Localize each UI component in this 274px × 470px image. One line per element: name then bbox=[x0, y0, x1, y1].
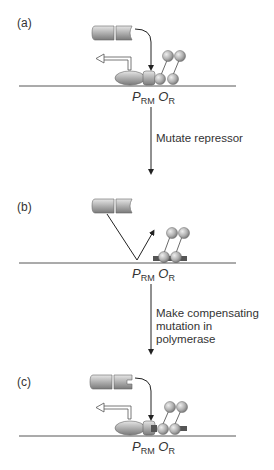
panel-b bbox=[19, 199, 236, 263]
diagram-canvas bbox=[0, 0, 274, 470]
panel-a bbox=[19, 26, 236, 86]
operator-label: O bbox=[158, 266, 168, 281]
operator-label: O bbox=[158, 439, 168, 454]
polymerase-bound-c bbox=[115, 421, 157, 435]
binding-arrow-a bbox=[135, 29, 151, 68]
repressor-mutant-b bbox=[153, 228, 190, 263]
polymerase-alpha-free-b bbox=[92, 199, 132, 213]
step-label-mutate-repressor: Mutate repressor bbox=[156, 132, 243, 145]
transcription-arrow-c bbox=[96, 403, 131, 419]
panel-c bbox=[19, 375, 236, 436]
binding-arrow-c bbox=[135, 378, 151, 418]
promoter-label: P bbox=[132, 89, 141, 104]
site-labels-a: PRM OR bbox=[132, 89, 175, 106]
panel-label-b: (b) bbox=[17, 200, 32, 214]
panel-label-c: (c) bbox=[17, 375, 31, 389]
repressor-a bbox=[155, 51, 186, 85]
repressor-mutant-c bbox=[158, 402, 188, 435]
transcription-arrow-a bbox=[96, 54, 131, 70]
promoter-label: P bbox=[132, 439, 141, 454]
promoter-label: P bbox=[132, 266, 141, 281]
step-label-compensating-mutation: Make compensating mutation in polymerase bbox=[156, 307, 274, 346]
polymerase-alpha-free-a bbox=[92, 26, 132, 40]
site-labels-c: PRM OR bbox=[132, 439, 175, 456]
site-labels-b: PRM OR bbox=[132, 266, 175, 283]
polymerase-alpha-mutant-free-c bbox=[90, 375, 132, 389]
operator-label: O bbox=[158, 89, 168, 104]
panel-label-a: (a) bbox=[17, 16, 32, 30]
failed-binding-arrow-b bbox=[107, 214, 153, 260]
polymerase-bound-a bbox=[115, 71, 155, 85]
